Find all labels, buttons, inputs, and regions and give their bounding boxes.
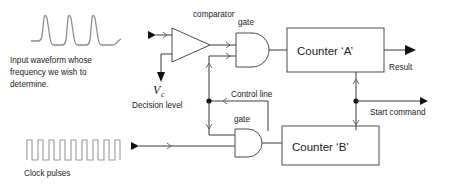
result-label: Result	[389, 63, 413, 72]
clock-pulses-trace	[27, 140, 120, 160]
result-output-wire	[384, 45, 416, 55]
input-waveform-trace	[31, 16, 121, 46]
input-waveform-label-line1: Input waveform whose	[10, 56, 92, 65]
clock-pulses-label: Clock pulses	[24, 169, 70, 178]
bottom-gate-label: gate	[234, 115, 250, 124]
top-gate-label: gate	[238, 18, 254, 27]
decision-level-terminal	[157, 54, 172, 82]
vc-subscript-label: c	[161, 90, 165, 99]
comparator-symbol	[172, 28, 210, 62]
signal-input-terminal	[148, 31, 172, 39]
comparator-output-wire	[210, 42, 236, 48]
input-waveform-label-line3: determine.	[10, 80, 49, 89]
diagram-canvas: Counter ‘A’	[0, 0, 454, 187]
counter-a-label: Counter ‘A’	[297, 45, 353, 57]
input-waveform-label-line2: frequency we wish to	[10, 68, 87, 77]
control-branch-to-bottom-gate	[206, 101, 235, 135]
control-line-label: Control line	[231, 90, 273, 99]
start-command-label: Start command	[370, 108, 426, 117]
frequency-counter-diagram: Counter ‘A’	[0, 0, 454, 187]
decision-level-label: Decision level	[132, 101, 183, 110]
bottom-and-gate-symbol	[235, 129, 262, 157]
start-command-bus	[353, 72, 428, 130]
comparator-label: comparator	[193, 10, 235, 19]
top-and-gate-symbol	[236, 33, 269, 67]
clock-input-terminal	[131, 142, 235, 150]
counter-b-label: Counter ‘B’	[292, 141, 349, 153]
